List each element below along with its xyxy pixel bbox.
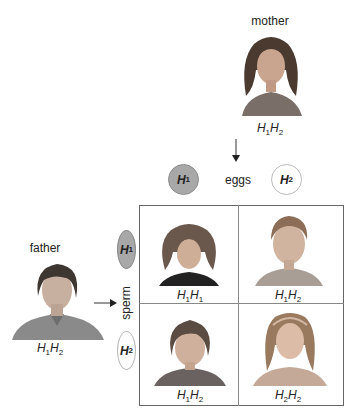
mother-portrait xyxy=(232,30,310,116)
egg-h1: H1 xyxy=(168,164,199,195)
offspring-portrait-top-left xyxy=(157,222,221,286)
offspring-genotype-top-right: H1H2 xyxy=(258,288,318,304)
sperm-h1: H1 xyxy=(117,230,136,269)
father-portrait xyxy=(10,258,105,340)
mother-genotype: H1H2 xyxy=(240,121,300,137)
offspring-portrait-bottom-right xyxy=(251,309,329,386)
right-arrow-icon xyxy=(94,298,118,308)
offspring-genotype-bottom-right: H2H2 xyxy=(258,388,318,404)
grid-vertical-divider xyxy=(238,205,239,406)
eggs-label: eggs xyxy=(215,173,261,187)
offspring-genotype-bottom-left: H1H2 xyxy=(160,388,220,404)
sperm-label: sperm xyxy=(119,283,133,323)
father-label: father xyxy=(15,241,75,255)
down-arrow-icon xyxy=(231,139,241,163)
offspring-genotype-top-left: H1H1 xyxy=(160,288,220,304)
sperm-h2: H2 xyxy=(117,331,136,370)
egg-h2: H2 xyxy=(271,164,302,195)
offspring-portrait-top-right xyxy=(253,212,325,286)
offspring-portrait-bottom-left xyxy=(152,316,228,386)
father-genotype: H1H2 xyxy=(20,341,80,357)
mother-label: mother xyxy=(230,14,310,28)
